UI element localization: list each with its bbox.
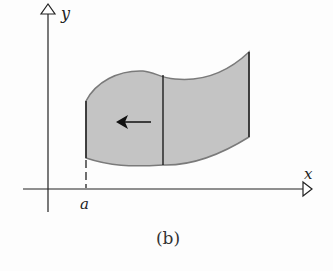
- a-label: a: [80, 195, 89, 213]
- figure-caption: (b): [156, 228, 180, 248]
- x-axis-arrow-icon: [303, 182, 312, 196]
- y-axis-arrow-icon: [41, 4, 55, 14]
- shaded-region: [86, 52, 249, 166]
- diagram-canvas: y x a (b): [0, 0, 333, 271]
- y-axis-label: y: [60, 4, 71, 23]
- x-axis-label: x: [304, 165, 313, 183]
- diagram-svg: y x a (b): [0, 0, 333, 271]
